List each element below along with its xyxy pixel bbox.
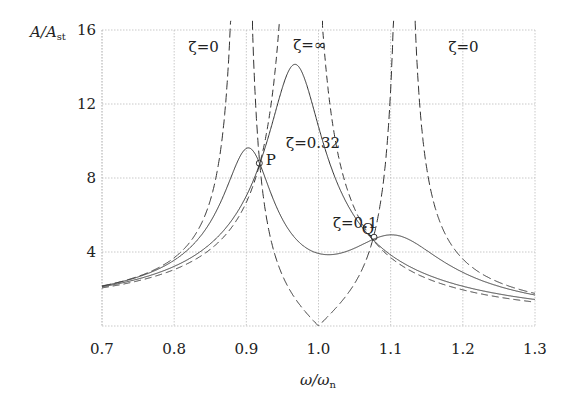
frequency-response-chart: 0.70.80.91.01.11.21.3481216 ζ=0ζ=∞ζ=0ζ=0… (0, 0, 563, 396)
annotation: Q (362, 220, 374, 238)
x-axis-label: ω/ωn (300, 371, 337, 390)
x-tick-label: 1.1 (379, 340, 403, 358)
x-tick-label: 1.2 (451, 340, 475, 358)
grid-lines (102, 30, 535, 326)
annotation: P (266, 151, 276, 169)
annotation: ζ=0 (189, 38, 219, 56)
curve-ζ=∞ (102, 21, 280, 288)
y-tick-label: 4 (86, 243, 96, 261)
curve-ζ=0 (415, 21, 535, 294)
x-tick-label: 0.8 (162, 340, 186, 358)
annotation: ζ=0.32 (286, 134, 340, 152)
y-axis-label: A/Ast (28, 23, 66, 42)
curve-ζ=∞ (323, 21, 536, 302)
axis-ticks: 0.70.80.91.01.11.21.3481216 (77, 21, 547, 358)
x-tick-label: 1.3 (523, 340, 547, 358)
x-tick-label: 0.7 (90, 340, 114, 358)
curve-ζ=0.1 (102, 148, 535, 295)
curve-ζ=0 (102, 21, 231, 286)
annotation: ζ=0 (448, 38, 478, 56)
y-tick-label: 16 (77, 21, 96, 39)
curve-ζ=0 (253, 21, 394, 326)
y-tick-label: 12 (77, 95, 96, 113)
y-tick-label: 8 (86, 169, 96, 187)
x-tick-label: 0.9 (234, 340, 258, 358)
x-tick-label: 1.0 (307, 340, 331, 358)
annotation: ζ=∞ (293, 36, 326, 54)
